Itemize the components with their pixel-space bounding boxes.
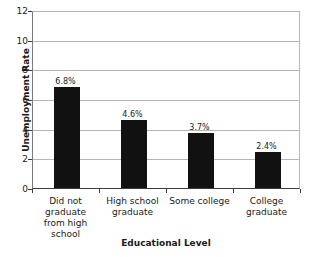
bar xyxy=(255,152,281,188)
y-axis-tick-mark xyxy=(28,130,32,131)
x-axis-category-label-line: College xyxy=(233,196,300,207)
x-axis-category-label-line: graduate xyxy=(99,207,166,218)
plot-area xyxy=(32,11,300,189)
y-axis-tick-label: 12 xyxy=(14,7,28,16)
bar-value-label: 2.4% xyxy=(247,143,287,151)
y-axis-tick-label: 10 xyxy=(14,37,28,46)
x-axis-tick-mark xyxy=(166,189,167,193)
x-axis-category-label: Did notgraduatefrom highschool xyxy=(32,196,99,240)
x-axis-category-label-line: Some college xyxy=(166,196,233,207)
y-axis-tick-labels: 024681012 xyxy=(12,0,28,257)
x-axis-category-label-line: from high xyxy=(32,218,99,229)
y-axis-tick-mark xyxy=(28,70,32,71)
x-axis-category-label-line: Did not xyxy=(32,196,99,207)
bar xyxy=(121,120,147,188)
x-axis-category-label-line: graduate xyxy=(32,207,99,218)
bar xyxy=(54,87,80,188)
x-axis-title: Educational Level xyxy=(32,238,300,248)
y-axis-tick-mark xyxy=(28,41,32,42)
gridline xyxy=(33,41,299,42)
y-axis-tick-label: 8 xyxy=(14,66,28,75)
bar-value-label: 3.7% xyxy=(180,124,220,132)
gridline xyxy=(33,70,299,71)
y-axis-tick-label: 2 xyxy=(14,155,28,164)
x-axis-tick-mark xyxy=(233,189,234,193)
y-axis-tick-label: 0 xyxy=(14,185,28,194)
y-axis-tick-label: 4 xyxy=(14,126,28,135)
x-axis-tick-mark xyxy=(32,189,33,193)
bar-chart: Unemployment Rate 024681012 Did notgradu… xyxy=(0,0,310,257)
bar-value-label: 4.6% xyxy=(113,111,153,119)
x-axis-category-label-line: graduate xyxy=(233,207,300,218)
x-axis-category-label: Some college xyxy=(166,196,233,207)
y-axis-tick-label: 6 xyxy=(14,96,28,105)
x-axis-tick-mark xyxy=(300,189,301,193)
gridline xyxy=(33,11,299,12)
x-axis-tick-mark xyxy=(99,189,100,193)
bar-value-label: 6.8% xyxy=(46,78,86,86)
y-axis-tick-mark xyxy=(28,11,32,12)
x-axis-category-label: High schoolgraduate xyxy=(99,196,166,218)
y-axis-tick-mark xyxy=(28,100,32,101)
x-axis-category-label: Collegegraduate xyxy=(233,196,300,218)
bar xyxy=(188,133,214,188)
y-axis-tick-mark xyxy=(28,159,32,160)
x-axis-category-label-line: High school xyxy=(99,196,166,207)
